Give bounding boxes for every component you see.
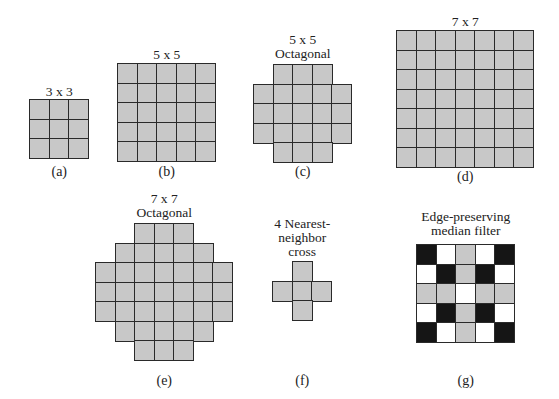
kernel-cell: [176, 102, 197, 123]
kernel-cell: [173, 282, 194, 303]
kernel-cell: [455, 69, 476, 90]
kernel-cell: [455, 264, 476, 285]
panel-f-title: 4 Nearest-neighborcross: [274, 217, 330, 259]
kernel-cell: [95, 301, 116, 322]
kernel-cell: [292, 84, 313, 105]
kernel-cell: [435, 147, 456, 168]
kernel-cell: [134, 223, 155, 244]
kernel-cell: [416, 128, 437, 149]
title-line: cross: [274, 245, 330, 259]
kernel-cell: [455, 30, 476, 51]
kernel-cell: [455, 147, 476, 168]
kernel-cell: [475, 244, 496, 265]
kernel-cell: [513, 30, 534, 51]
kernel-cell: [494, 69, 515, 90]
kernel-cell: [435, 50, 456, 71]
kernel-cell: [474, 30, 495, 51]
kernel-cell: [134, 262, 155, 283]
kernel-cell: [154, 243, 175, 264]
kernel-cell: [494, 89, 515, 110]
kernel-cell: [455, 303, 476, 324]
kernel-cell: [49, 119, 70, 140]
kernel-cell: [134, 321, 155, 342]
kernel-cell: [115, 321, 136, 342]
title-line: 4 Nearest-: [274, 217, 330, 231]
kernel-cell: [494, 50, 515, 71]
kernel-cell: [137, 122, 158, 143]
kernel-cell: [176, 122, 197, 143]
kernel-cell: [513, 89, 534, 110]
kernel-cell: [173, 223, 194, 244]
kernel-cell: [455, 128, 476, 149]
kernel-cell: [494, 30, 515, 51]
kernel-cell: [212, 282, 233, 303]
panel-c-caption: (c): [295, 165, 311, 179]
kernel-cell: [416, 69, 437, 90]
kernel-cell: [273, 64, 294, 85]
kernel-cell: [474, 147, 495, 168]
kernel-cell: [474, 69, 495, 90]
kernel-cell: [513, 108, 534, 129]
kernel-cell: [193, 243, 214, 264]
kernel-cell: [513, 69, 534, 90]
kernel-cell: [513, 128, 534, 149]
kernel-cell: [195, 141, 216, 162]
panel-a-title: 3 x 3: [46, 85, 73, 99]
kernel-cell: [29, 138, 50, 159]
kernel-cell: [117, 83, 138, 104]
kernel-cell: [154, 262, 175, 283]
kernel-cell: [68, 138, 89, 159]
kernel-cell: [173, 301, 194, 322]
panel-d-title: 7 x 7: [452, 15, 479, 29]
kernel-cell: [292, 103, 313, 124]
kernel-cell: [475, 322, 496, 343]
kernel-cell: [455, 283, 476, 304]
kernel-cell: [474, 50, 495, 71]
kernel-cell: [416, 283, 437, 304]
kernel-cell: [396, 147, 417, 168]
kernel-cell: [117, 63, 138, 84]
kernel-cell: [455, 50, 476, 71]
kernel-cell: [416, 244, 437, 265]
kernel-cell: [436, 244, 457, 265]
kernel-cell: [312, 64, 333, 85]
kernel-cell: [115, 301, 136, 322]
title-line: 7 x 7: [137, 192, 192, 206]
kernel-cell: [312, 103, 333, 124]
kernel-cell: [494, 108, 515, 129]
kernel-cell: [29, 119, 50, 140]
kernel-cell: [193, 262, 214, 283]
kernel-cell: [134, 243, 155, 264]
kernel-cell: [436, 264, 457, 285]
title-line: 7 x 7: [452, 15, 479, 29]
kernel-cell: [436, 283, 457, 304]
kernel-cell: [513, 147, 534, 168]
kernel-cell: [173, 321, 194, 342]
kernel-cell: [156, 102, 177, 123]
kernel-cell: [494, 128, 515, 149]
kernel-cell: [396, 108, 417, 129]
kernel-cell: [475, 303, 496, 324]
kernel-cell: [49, 138, 70, 159]
kernel-cell: [455, 89, 476, 110]
title-line: 3 x 3: [46, 85, 73, 99]
kernel-cell: [292, 261, 313, 282]
kernel-cell: [154, 223, 175, 244]
kernel-cell: [475, 283, 496, 304]
kernel-cell: [195, 122, 216, 143]
kernel-cell: [416, 264, 437, 285]
kernel-cell: [195, 83, 216, 104]
kernel-cell: [137, 83, 158, 104]
title-line: Octagonal: [137, 206, 192, 220]
kernel-cell: [435, 128, 456, 149]
kernel-cell: [513, 50, 534, 71]
kernel-cell: [455, 322, 476, 343]
kernel-cell: [273, 142, 294, 163]
title-line: neighbor: [274, 231, 330, 245]
kernel-cell: [396, 69, 417, 90]
kernel-cell: [156, 122, 177, 143]
kernel-cell: [156, 141, 177, 162]
kernel-cell: [68, 99, 89, 120]
kernel-cell: [154, 301, 175, 322]
kernel-cell: [117, 141, 138, 162]
